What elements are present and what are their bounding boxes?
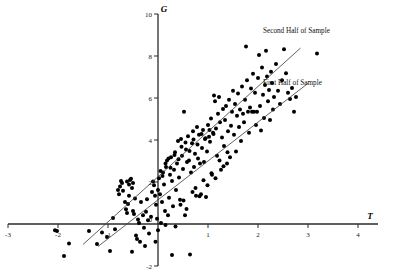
data-point [202, 178, 206, 182]
data-point [184, 147, 188, 151]
data-point [87, 229, 91, 233]
data-point [113, 227, 117, 231]
data-point [137, 221, 141, 225]
data-point [233, 102, 237, 106]
data-point [286, 91, 290, 95]
data-point [172, 168, 176, 172]
data-point [138, 240, 142, 244]
data-point [116, 188, 120, 192]
data-point [210, 171, 214, 175]
data-point [155, 217, 159, 221]
data-point [205, 150, 209, 154]
data-point [276, 89, 280, 93]
data-point [156, 188, 160, 192]
data-point [201, 128, 205, 132]
data-point [209, 117, 213, 121]
data-point [174, 188, 178, 192]
data-point [196, 143, 200, 147]
data-point [127, 194, 131, 198]
data-point [132, 212, 136, 216]
data-point [212, 132, 216, 136]
data-point [256, 76, 260, 80]
data-point [294, 95, 298, 99]
data-point [192, 165, 196, 169]
data-point [222, 164, 226, 168]
data-point [272, 95, 276, 99]
data-point [175, 162, 179, 166]
data-point [249, 87, 253, 91]
data-point [159, 169, 163, 173]
data-point [164, 162, 168, 166]
figure-container: -3-2-101234-2246810TG Second Half of Sam… [0, 0, 396, 280]
data-point [164, 223, 168, 227]
data-point [232, 133, 236, 137]
data-point [191, 190, 195, 194]
data-point [108, 249, 112, 253]
data-point [214, 126, 218, 130]
data-point [187, 159, 191, 163]
y-tick-label: 10 [145, 11, 153, 19]
data-point [198, 194, 202, 198]
data-point [212, 93, 216, 97]
data-point [191, 129, 195, 133]
y-tick-label: 8 [149, 53, 153, 61]
data-point [131, 181, 135, 185]
data-point [204, 136, 208, 140]
data-point [180, 154, 184, 158]
data-point [223, 118, 227, 122]
data-point [183, 213, 187, 217]
data-point [159, 221, 163, 225]
data-point [180, 145, 184, 149]
data-point [261, 93, 265, 97]
scatter-plot: -3-2-101234-2246810TG Second Half of Sam… [0, 0, 396, 280]
data-point [242, 120, 246, 124]
data-point [130, 250, 134, 254]
data-point [217, 95, 221, 99]
data-point [255, 110, 259, 114]
data-point [182, 110, 186, 114]
data-point [62, 254, 66, 258]
data-point [234, 150, 238, 154]
data-point [208, 140, 212, 144]
data-point [127, 183, 131, 187]
data-point [147, 231, 151, 235]
data-point [246, 110, 250, 114]
data-point [241, 112, 245, 116]
data-point [227, 98, 231, 102]
data-point [194, 194, 198, 198]
data-point [152, 183, 156, 187]
data-point [218, 159, 222, 163]
x-tick-label: -3 [5, 231, 11, 239]
data-point [150, 190, 154, 194]
data-point [125, 211, 129, 215]
data-point [244, 45, 248, 49]
data-point [192, 138, 196, 142]
data-point [194, 186, 198, 190]
data-point [200, 146, 204, 150]
data-point [292, 110, 296, 114]
data-point [259, 129, 263, 133]
data-point [121, 189, 125, 193]
data-point [206, 183, 210, 187]
x-tick-label: 1 [206, 231, 210, 239]
data-point [142, 226, 146, 230]
data-point [274, 62, 278, 66]
data-point [184, 141, 188, 145]
data-point [282, 47, 286, 51]
data-point [145, 197, 149, 201]
data-point [260, 66, 264, 70]
data-point [229, 124, 233, 128]
data-point [216, 112, 220, 116]
data-point [214, 176, 218, 180]
data-point [239, 139, 243, 143]
data-point [198, 162, 202, 166]
data-point [174, 225, 178, 229]
series-label: First Half of Sample [263, 79, 322, 87]
data-point [163, 209, 167, 213]
data-point [53, 228, 57, 232]
data-point [161, 174, 165, 178]
data-point [315, 51, 319, 55]
data-point [220, 135, 224, 139]
data-point [171, 204, 175, 208]
data-point [264, 49, 268, 53]
